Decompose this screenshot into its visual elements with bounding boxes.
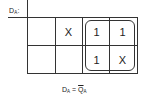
eq-rhs-sub: A	[84, 89, 87, 94]
eq-equals: =	[72, 86, 76, 93]
cell-r1-c1	[55, 46, 82, 73]
cell-r0-c1: X	[55, 18, 82, 45]
grouping-loop	[85, 20, 135, 71]
cell-r0-c0	[28, 18, 55, 45]
eq-lhs-sub: A	[67, 89, 70, 94]
cell-r1-c0	[28, 46, 55, 73]
grid-line-right	[137, 17, 138, 74]
equation: DA = QA	[62, 86, 87, 94]
label-colon: :	[17, 7, 19, 14]
map-label: DA:	[9, 7, 20, 15]
